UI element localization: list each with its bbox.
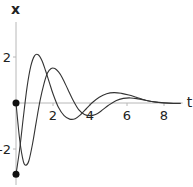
initial-point-1 [13, 100, 20, 107]
series-layer [16, 54, 181, 174]
x-axis-label: t [187, 94, 193, 110]
series-line-1 [16, 68, 181, 165]
initial-point-2 [13, 171, 20, 178]
x-tick-label: 8 [160, 108, 168, 123]
y-tick-label: 2 [3, 50, 11, 65]
y-tick-label: -2 [0, 142, 11, 157]
x-tick-label: 2 [49, 108, 57, 123]
x-tick-label: 6 [123, 108, 131, 123]
y-axis-label: x [11, 1, 20, 17]
series-line-2 [16, 54, 181, 174]
chart: t x 24682-2 [0, 0, 193, 187]
